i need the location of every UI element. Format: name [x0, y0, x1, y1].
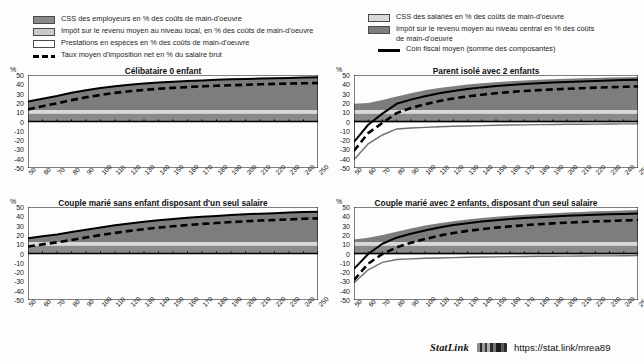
plot-area — [354, 207, 638, 300]
y-tick-label: 40 — [16, 81, 24, 88]
y-tick-label: 0 — [346, 250, 350, 257]
area-band — [28, 110, 318, 114]
y-tick-label: 20 — [342, 99, 350, 106]
y-tick-label: 30 — [16, 90, 24, 97]
chart-panel-couple-marie-2-enfants: % Couple marié avec 2 enfants, disposant… — [330, 198, 642, 330]
y-tick-label: -10 — [340, 259, 350, 266]
y-tick-label: 20 — [16, 231, 24, 238]
legend-label: CSS des employeurs en % des coûts de mai… — [61, 14, 242, 24]
legend-left: CSS des employeurs en % des coûts de mai… — [33, 14, 333, 62]
y-tick-label: -10 — [14, 259, 24, 266]
legend-label: Coin fiscal moyen (somme des composantes… — [406, 44, 556, 54]
x-tick-label: 250 — [317, 295, 330, 308]
y-tick-label: 0 — [20, 250, 24, 257]
y-tick-label: 10 — [342, 241, 350, 248]
chart-panel-couple-marie-sans-enfant: % Couple marié sans enfant disposant d'u… — [4, 198, 322, 330]
y-tick-label: 0 — [20, 118, 24, 125]
y-tick-label: -40 — [14, 287, 24, 294]
y-tick-label: -10 — [340, 127, 350, 134]
y-tick-label: 30 — [342, 90, 350, 97]
legend-item-cash-benefits: Prestations en espèces en % des coûts de… — [33, 38, 333, 49]
y-tick-label: -30 — [340, 278, 350, 285]
legend-item-central-income-tax: Impôt sur le revenu moyen au niveau cent… — [368, 24, 644, 43]
plot-area — [28, 207, 318, 300]
y-tick-label: -40 — [340, 155, 350, 162]
x-tick-label: 250 — [317, 163, 330, 176]
employer-ssc-swatch-icon — [33, 16, 55, 24]
y-tick-label: -40 — [14, 155, 24, 162]
legend-label: Impôt sur le revenu moyen au niveau loca… — [61, 26, 313, 36]
x-axis-labels: 5060708090100110120130140150160170180190… — [354, 302, 638, 328]
area-band — [354, 242, 638, 246]
y-tick-label: -40 — [340, 287, 350, 294]
y-axis-labels: 50403020100-10-20-30-40-50 — [330, 207, 352, 300]
y-tick-label: 10 — [16, 109, 24, 116]
y-tick-label: -30 — [14, 278, 24, 285]
local-income-tax-swatch-icon — [33, 28, 55, 36]
legend-item-net-average-tax-rate: Taux moyen d'imposition net en % du sala… — [33, 50, 333, 61]
plot-area — [28, 75, 318, 168]
x-tick-label: 250 — [637, 163, 644, 176]
y-tick-label: 20 — [16, 99, 24, 106]
y-tick-label: 40 — [16, 213, 24, 220]
y-tick-label: 40 — [342, 81, 350, 88]
y-tick-label: 20 — [342, 231, 350, 238]
x-axis-labels: 5060708090100110120130140150160170180190… — [28, 302, 318, 328]
central-income-tax-swatch-icon — [368, 26, 390, 34]
legend-label: Prestations en espèces en % des coûts de… — [61, 38, 249, 48]
y-tick-label: -30 — [14, 146, 24, 153]
statlink-chart-figure: CSS des employeurs en % des coûts de mai… — [0, 0, 644, 364]
y-axis-labels: 50403020100-10-20-30-40-50 — [330, 75, 352, 168]
y-axis-labels: 50403020100-10-20-30-40-50 — [4, 207, 26, 300]
y-tick-label: -50 — [340, 297, 350, 304]
y-tick-label: -20 — [14, 137, 24, 144]
cash-benefits-area — [354, 122, 638, 160]
x-axis-labels: 5060708090100110120130140150160170180190… — [28, 170, 318, 196]
cash-benefits-swatch-icon — [33, 40, 55, 48]
y-tick-label: 40 — [342, 213, 350, 220]
legend-label: Taux moyen d'imposition net en % du sala… — [61, 50, 222, 60]
chart-panel-celibataire-0-enfant: % Célibataire 0 enfant 50403020100-10-20… — [4, 66, 322, 194]
y-axis-labels: 50403020100-10-20-30-40-50 — [4, 75, 26, 168]
statlink-footer: StatLink https://stat.link/mrea89 — [430, 340, 610, 354]
employee-ssc-swatch-icon — [368, 14, 390, 22]
y-tick-label: 10 — [342, 109, 350, 116]
statlink-url[interactable]: https://stat.link/mrea89 — [514, 342, 611, 353]
area-band — [28, 242, 318, 246]
x-axis-labels: 5060708090100110120130140150160170180190… — [354, 170, 638, 196]
legend-label: CSS des salariés en % des coûts de main-… — [396, 12, 564, 22]
chart-panel-parent-isole-2-enfants: % Parent isolé avec 2 enfants 5040302010… — [330, 66, 642, 194]
y-tick-label: 10 — [16, 241, 24, 248]
solid-line-icon — [378, 46, 400, 54]
legend-right: CSS des salariés en % des coûts de main-… — [368, 12, 644, 56]
y-tick-label: -50 — [14, 297, 24, 304]
y-tick-label: -50 — [340, 165, 350, 172]
y-tick-label: 30 — [342, 222, 350, 229]
cash-benefits-area — [354, 254, 638, 283]
legend-item-average-tax-wedge: Coin fiscal moyen (somme des composantes… — [368, 44, 644, 55]
y-tick-label: -50 — [14, 165, 24, 172]
y-tick-label: -20 — [340, 269, 350, 276]
y-tick-label: -10 — [14, 127, 24, 134]
y-tick-label: 0 — [346, 118, 350, 125]
legend-item-employer-ssc: CSS des employeurs en % des coûts de mai… — [33, 14, 333, 25]
statlink-wordmark: StatLink — [430, 342, 469, 353]
plot-area — [354, 75, 638, 168]
legend-item-local-income-tax: Impôt sur le revenu moyen au niveau loca… — [33, 26, 333, 37]
y-tick-label: -20 — [14, 269, 24, 276]
x-tick-label: 250 — [637, 295, 644, 308]
dashed-line-icon — [33, 52, 55, 60]
legend-item-employee-ssc: CSS des salariés en % des coûts de main-… — [368, 12, 644, 23]
y-tick-label: -20 — [340, 137, 350, 144]
y-tick-label: 30 — [16, 222, 24, 229]
statlink-barcode-logo-icon — [477, 343, 507, 352]
legend-label: Impôt sur le revenu moyen au niveau cent… — [396, 24, 594, 43]
y-tick-label: -30 — [340, 146, 350, 153]
